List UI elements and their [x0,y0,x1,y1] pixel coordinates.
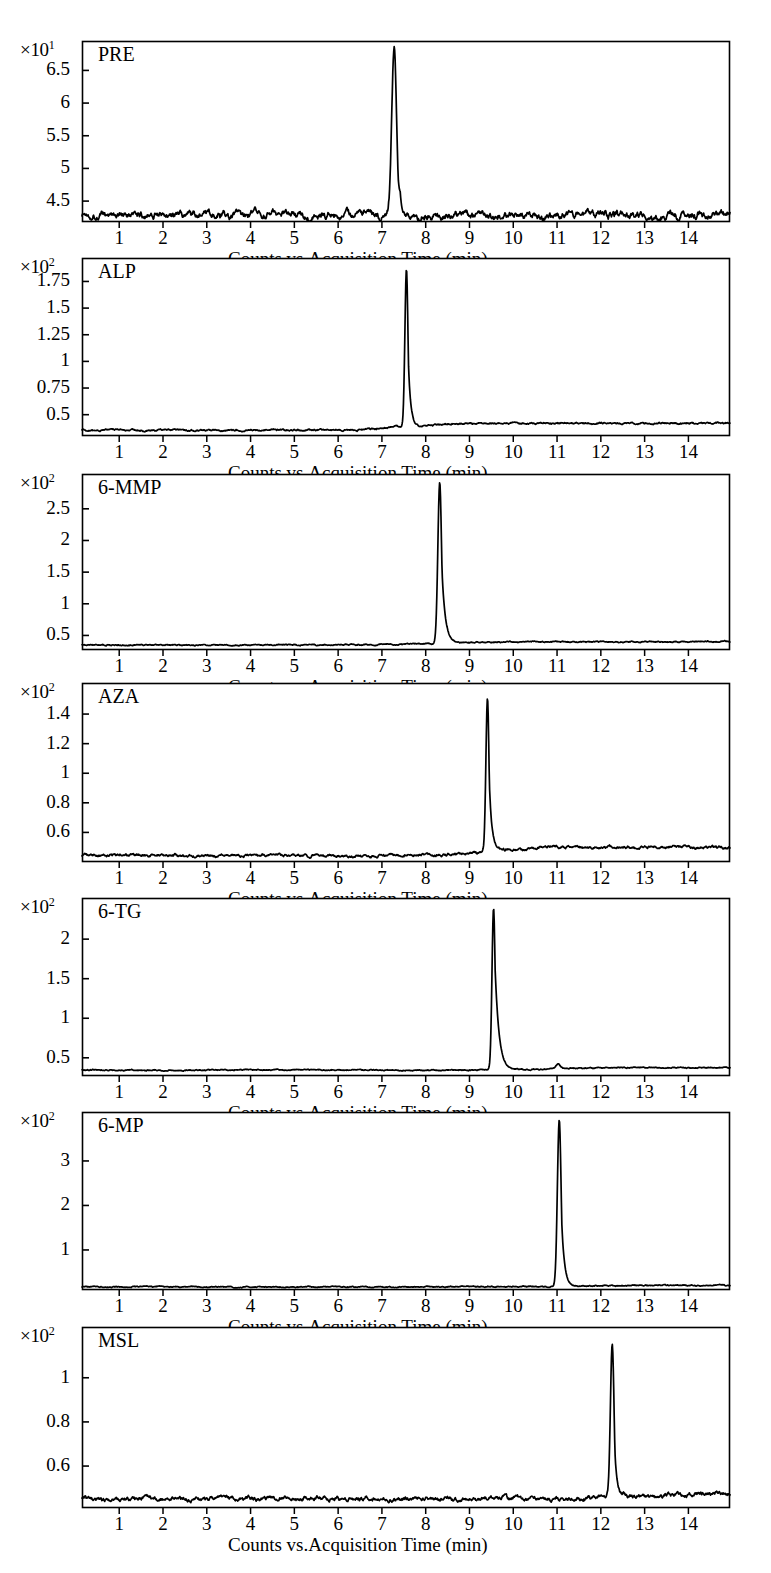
x-axis-tick-label: 11 [537,1513,577,1535]
y-axis-tick-label: 2 [0,528,70,550]
y-axis-tick-label: 5 [0,156,70,178]
y-axis-tick-label: 2 [0,927,70,949]
y-axis-tick-label: 0.75 [0,376,70,398]
series-label-aza: AZA [98,685,139,708]
y-axis-tick-label: 0.5 [0,403,70,425]
plot-background [82,1327,730,1508]
x-axis-tick-label: 13 [625,1513,665,1535]
plot-background [82,41,730,222]
y-axis-tick-label: 1 [0,592,70,614]
y-axis-tick-label: 1 [0,761,70,783]
y-axis-tick-label: 0.8 [0,1410,70,1432]
y-axis-tick-label: 1.5 [0,560,70,582]
y-axis-tick-label: 1.5 [0,296,70,318]
y-axis-exponent-mantissa: ×10 [20,472,49,493]
plot-background [82,1112,730,1290]
x-axis-tick-label: 6 [318,1513,358,1535]
y-axis-exponent-label: ×102 [20,1324,55,1347]
y-axis-tick-label: 4.5 [0,189,70,211]
x-axis-tick-label: 3 [187,1513,227,1535]
y-axis-tick-label: 1.5 [0,967,70,989]
x-axis-caption: Counts vs.Acquisition Time (min) [228,1534,488,1556]
y-axis-exponent-mantissa: ×10 [20,1325,49,1346]
x-axis-tick-label: 5 [274,1513,314,1535]
y-axis-exponent-mantissa: ×10 [20,896,49,917]
x-axis-tick-label: 9 [449,1513,489,1535]
y-axis-tick-label: 2.5 [0,497,70,519]
y-axis-tick-label: 1.4 [0,702,70,724]
y-axis-exponent-power: 2 [49,1324,55,1338]
y-axis-exponent-label: ×102 [20,1109,55,1132]
y-axis-exponent-power: 2 [49,895,55,909]
series-label-6-mp: 6-MP [98,1114,144,1137]
y-axis-exponent-label: ×102 [20,895,55,918]
series-label-6-tg: 6-TG [98,900,141,923]
series-label-alp: ALP [98,260,136,283]
y-axis-tick-label: 6 [0,91,70,113]
y-axis-tick-label: 1 [0,1006,70,1028]
chromatogram-panel-alp: ×1020.50.7511.251.51.7512345678910111213… [0,236,771,488]
y-axis-tick-label: 1 [0,1366,70,1388]
y-axis-tick-label: 2 [0,1193,70,1215]
y-axis-tick-label: 1 [0,1238,70,1260]
x-axis-tick-label: 2 [143,1513,183,1535]
plot-background [82,683,730,862]
y-axis-exponent-power: 2 [49,680,55,694]
chromatogram-figure: ×1014.555.566.51234567891011121314PRECou… [0,0,771,1573]
y-axis-exponent-power: 2 [49,471,55,485]
y-axis-tick-label: 1.75 [0,269,70,291]
y-axis-tick-label: 0.5 [0,1046,70,1068]
y-axis-exponent-label: ×102 [20,471,55,494]
y-axis-exponent-power: 2 [49,255,55,269]
plot-background [82,898,730,1076]
y-axis-exponent-mantissa: ×10 [20,39,49,60]
x-axis-tick-label: 7 [362,1513,402,1535]
y-axis-tick-label: 5.5 [0,124,70,146]
x-axis-tick-label: 4 [231,1513,271,1535]
y-axis-exponent-label: ×102 [20,680,55,703]
y-axis-tick-label: 1.25 [0,323,70,345]
y-axis-tick-label: 0.8 [0,791,70,813]
series-label-pre: PRE [98,43,135,66]
y-axis-tick-label: 0.5 [0,623,70,645]
y-axis-exponent-power: 1 [49,38,55,52]
y-axis-tick-label: 6.5 [0,58,70,80]
x-axis-tick-label: 1 [99,1513,139,1535]
y-axis-exponent-mantissa: ×10 [20,681,49,702]
y-axis-tick-label: 1 [0,349,70,371]
y-axis-tick-label: 3 [0,1149,70,1171]
y-axis-tick-label: 1.2 [0,732,70,754]
series-label-msl: MSL [98,1329,139,1352]
y-axis-exponent-mantissa: ×10 [20,1110,49,1131]
series-label-6-mmp: 6-MMP [98,476,161,499]
plot-background [82,474,730,650]
x-axis-tick-label: 10 [493,1513,533,1535]
x-axis-tick-label: 8 [406,1513,446,1535]
y-axis-exponent-power: 2 [49,1109,55,1123]
y-axis-tick-label: 0.6 [0,1454,70,1476]
x-axis-tick-label: 12 [581,1513,621,1535]
chromatogram-panel-msl: ×1020.60.811234567891011121314MSLCounts … [0,1305,771,1560]
x-axis-tick-label: 14 [668,1513,708,1535]
y-axis-tick-label: 0.6 [0,820,70,842]
